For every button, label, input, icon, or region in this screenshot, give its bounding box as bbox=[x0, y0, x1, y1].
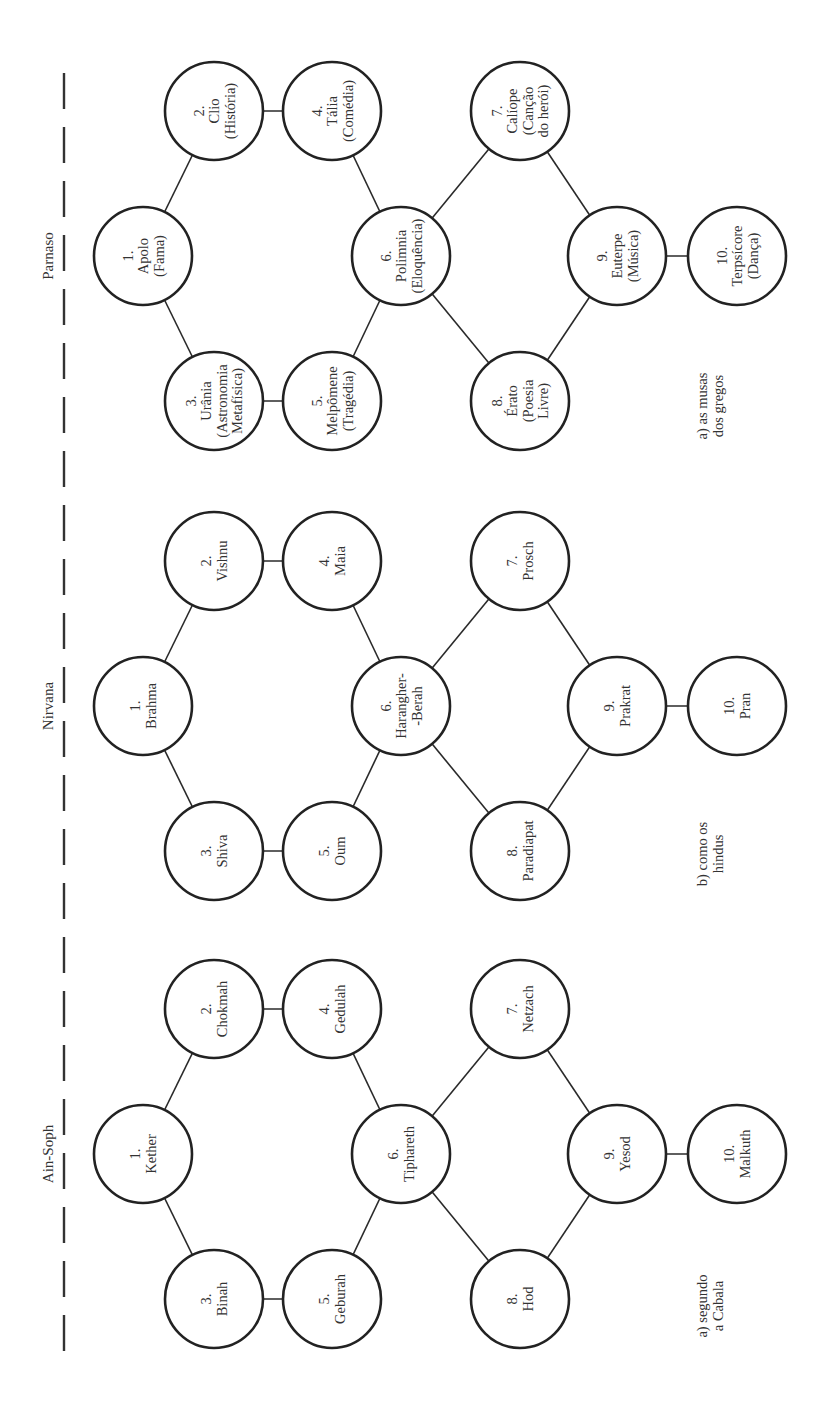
node-label-line: Livre) bbox=[535, 383, 552, 419]
node-label-line: (Astronomia bbox=[214, 364, 231, 438]
node-label-line: 2. bbox=[198, 1004, 214, 1015]
node-label-line: Érato bbox=[504, 385, 520, 416]
node-label-line: Gedulah bbox=[332, 984, 348, 1034]
node-parnaso-6: 6.Polimnia(Eloquência) bbox=[352, 207, 450, 305]
node-parnaso-10: 10.Terpsícore(Dança) bbox=[688, 207, 786, 305]
node-label-line: 3. bbox=[198, 846, 214, 857]
node-label-line: Netzach bbox=[520, 985, 536, 1033]
node-nirvana-10: 10.Pran bbox=[688, 657, 786, 755]
node-label-line: Urânia bbox=[198, 381, 214, 421]
node-label-line: Polimnia bbox=[393, 229, 409, 282]
node-label-line: (Dança) bbox=[745, 232, 762, 279]
node-ain-soph-5: 5.Geburah bbox=[283, 1250, 381, 1348]
node-parnaso-9: 9.Euterpe(Música) bbox=[568, 207, 666, 305]
node-label-line: Calíope bbox=[504, 88, 520, 133]
node-label-line: Chokmah bbox=[214, 980, 230, 1037]
node-label-line: 8. bbox=[504, 846, 520, 857]
node-label-line: 7. bbox=[489, 106, 505, 117]
node-parnaso-7: 7.Calíope(Cançãodo herói) bbox=[471, 62, 569, 160]
node-label-line: 1. bbox=[120, 251, 136, 262]
node-label-line: 1. bbox=[127, 1149, 143, 1160]
diagram-sections: Parnaso1.Apolo(Fama)2.Clio(História)3.Ur… bbox=[40, 62, 786, 1348]
node-label-line: Malkuth bbox=[737, 1129, 753, 1179]
node-label-line: 7. bbox=[504, 1004, 520, 1015]
node-label-line: (Fama) bbox=[151, 235, 168, 277]
node-ain-soph-4: 4.Gedulah bbox=[283, 960, 381, 1058]
node-nirvana-1: 1.Brahma bbox=[94, 657, 192, 755]
node-label-line: 6. bbox=[378, 701, 394, 712]
node-label-line: 6. bbox=[385, 1149, 401, 1160]
node-label-line: Apolo bbox=[135, 238, 151, 274]
node-ain-soph-10: 10.Malkuth bbox=[688, 1105, 786, 1203]
node-label-line: (Eloquência) bbox=[409, 218, 426, 293]
section-caption-line: a Cabala bbox=[710, 1280, 726, 1331]
node-nirvana-8: 8.Paradiapat bbox=[471, 802, 569, 900]
node-label-line: (Comédia) bbox=[340, 80, 357, 142]
node-label-line: Brahma bbox=[143, 682, 159, 728]
node-parnaso-5: 5.Melpômene(Tragédia) bbox=[283, 352, 381, 450]
node-label-line: Terpsícore bbox=[729, 226, 745, 287]
section-header: Nirvana bbox=[40, 682, 56, 731]
section-header: Parnaso bbox=[40, 232, 56, 280]
node-label-line: 3. bbox=[198, 1294, 214, 1305]
section-parnaso: Parnaso1.Apolo(Fama)2.Clio(História)3.Ur… bbox=[40, 62, 786, 450]
section-header-line: Ain-Soph bbox=[40, 1124, 56, 1183]
node-label-line: 7. bbox=[504, 556, 520, 567]
node-label-line: 9. bbox=[594, 251, 610, 262]
section-header-line: Parnaso bbox=[40, 232, 56, 280]
node-ain-soph-7: 7.Netzach bbox=[471, 960, 569, 1058]
node-label-line: 2. bbox=[191, 106, 207, 117]
node-label-line: Prosch bbox=[520, 541, 536, 581]
section-caption-line: b) como os bbox=[694, 821, 711, 886]
sephiroth-comparison-diagram: Parnaso1.Apolo(Fama)2.Clio(História)3.Ur… bbox=[0, 0, 834, 1411]
node-label-line: Maia bbox=[332, 546, 348, 576]
node-label-line: 4. bbox=[316, 1004, 332, 1015]
section-nirvana: Nirvana1.Brahma2.Vishnu3.Shiva4.Maia5.Ou… bbox=[40, 512, 786, 900]
node-label-line: Tália bbox=[324, 96, 340, 126]
node-label-line: Kether bbox=[143, 1134, 159, 1174]
node-label-line: 5. bbox=[309, 396, 325, 407]
node-parnaso-2: 2.Clio(História) bbox=[165, 62, 263, 160]
node-label-line: (Canção bbox=[520, 87, 537, 135]
node-label-line: 5. bbox=[316, 846, 332, 857]
node-ain-soph-9: 9.Yesod bbox=[568, 1105, 666, 1203]
node-label-line: 4. bbox=[309, 106, 325, 117]
node-label-line: (História) bbox=[222, 83, 239, 140]
node-label-line: Binah bbox=[214, 1281, 230, 1316]
section-caption-line: dos gregos bbox=[710, 374, 726, 437]
node-label-line: -Berah bbox=[409, 686, 425, 726]
node-nirvana-2: 2.Vishnu bbox=[165, 512, 263, 610]
node-nirvana-3: 3.Shiva bbox=[165, 802, 263, 900]
node-label-line: Euterpe bbox=[609, 233, 625, 278]
node-label-line: Pran bbox=[737, 692, 753, 719]
node-label-line: 9. bbox=[601, 701, 617, 712]
section-caption: a) segundoa Cabala bbox=[694, 1274, 726, 1337]
section-caption-line: a) as musas bbox=[694, 372, 711, 439]
node-label-line: 10. bbox=[721, 1145, 737, 1163]
node-nirvana-5: 5.Oum bbox=[283, 802, 381, 900]
node-label-line: do herói) bbox=[535, 84, 552, 137]
node-label-line: Clio bbox=[206, 99, 222, 124]
section-caption-line: hindus bbox=[710, 834, 726, 873]
section-header: Ain-Soph bbox=[40, 1124, 56, 1183]
node-label-line: (Tragédia) bbox=[340, 370, 357, 431]
node-label-line: Geburah bbox=[332, 1273, 348, 1324]
node-parnaso-4: 4.Tália(Comédia) bbox=[283, 62, 381, 160]
node-label-line: 8. bbox=[504, 1294, 520, 1305]
node-label-line: (Poesia bbox=[520, 379, 537, 422]
node-label-line: 5. bbox=[316, 1294, 332, 1305]
node-label-line: Hod bbox=[520, 1286, 536, 1312]
node-parnaso-8: 8.Érato(PoesiaLivre) bbox=[471, 352, 569, 450]
node-label-line: Prakrat bbox=[617, 685, 633, 727]
node-label-line: Oum bbox=[332, 836, 348, 866]
node-label-line: 1. bbox=[127, 701, 143, 712]
node-parnaso-3: 3.Urânia(AstronomiaMetafísica) bbox=[165, 352, 263, 450]
node-ain-soph-8: 8.Hod bbox=[471, 1250, 569, 1348]
node-label-line: Metafísica) bbox=[229, 368, 246, 434]
node-label-line: Yesod bbox=[617, 1135, 633, 1171]
node-label-line: (Música) bbox=[625, 230, 642, 283]
node-label-line: Harangher- bbox=[393, 673, 409, 739]
node-label-line: Vishnu bbox=[214, 540, 230, 581]
node-nirvana-7: 7.Prosch bbox=[471, 512, 569, 610]
node-ain-soph-6: 6.Tiphareth bbox=[352, 1105, 450, 1203]
